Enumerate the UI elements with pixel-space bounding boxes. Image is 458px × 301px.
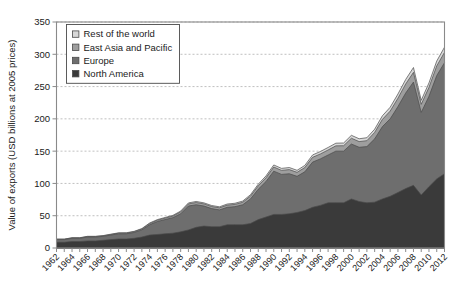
legend-label-east-asia-and-pacific: East Asia and Pacific bbox=[84, 42, 173, 53]
x-tick-label: 2012 bbox=[428, 252, 449, 273]
legend-swatch-east-asia-and-pacific bbox=[73, 44, 79, 50]
stacked-area-chart: 050100150200250300350 196219641966196819… bbox=[0, 0, 458, 301]
chart-legend: Rest of the worldEast Asia and PacificEu… bbox=[67, 25, 180, 84]
y-tick-label: 50 bbox=[39, 210, 50, 221]
legend-swatch-north-america bbox=[73, 71, 79, 77]
y-tick-label: 200 bbox=[34, 113, 50, 124]
legend-label-rest-of-the-world: Rest of the world bbox=[84, 28, 155, 39]
legend-label-north-america: North America bbox=[84, 68, 145, 79]
legend-swatch-europe bbox=[73, 57, 79, 63]
y-tick-label: 300 bbox=[34, 49, 50, 60]
y-tick-label: 350 bbox=[34, 16, 50, 27]
y-axis-title-group: Value of exports (USD billions at 2005 p… bbox=[6, 40, 17, 231]
x-axis-ticks-group: 1962196419661968197019721974197619781980… bbox=[40, 248, 449, 273]
chart-container: 050100150200250300350 196219641966196819… bbox=[0, 0, 458, 301]
legend-label-europe: Europe bbox=[84, 55, 115, 66]
y-tick-label: 0 bbox=[45, 242, 50, 253]
legend-swatch-rest-of-the-world bbox=[73, 31, 79, 37]
y-tick-label: 250 bbox=[34, 81, 50, 92]
y-axis-title: Value of exports (USD billions at 2005 p… bbox=[6, 40, 17, 231]
y-tick-label: 150 bbox=[34, 146, 50, 157]
y-tick-label: 100 bbox=[34, 178, 50, 189]
y-axis-ticks-group: 050100150200250300350 bbox=[34, 16, 56, 253]
